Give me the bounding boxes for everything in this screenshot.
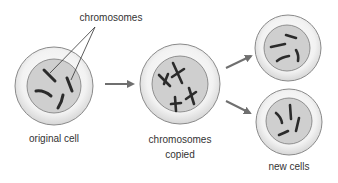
new-cell-top [255, 15, 321, 81]
original-cell-label: original cell [29, 133, 79, 144]
chromosomes-label: chromosomes [80, 12, 143, 23]
new-cell-bottom [256, 89, 322, 155]
arrow-up-right-icon [226, 56, 251, 68]
copied-label-line1: chromosomes [149, 134, 212, 145]
original-cell [15, 47, 93, 125]
mitosis-diagram: chromosomes original cell chromosomes co… [0, 0, 338, 183]
arrow-down-right-icon [226, 101, 250, 113]
new-cells-label: new cells [268, 161, 309, 172]
copied-cell [140, 44, 220, 124]
nucleus [27, 59, 81, 113]
copied-label-line2: copied [165, 149, 194, 160]
